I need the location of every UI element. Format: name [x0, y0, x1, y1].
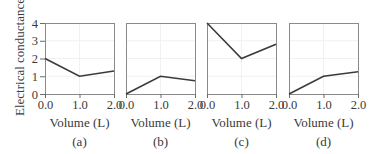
panel-label: (b): [153, 134, 168, 149]
panel-label: (c): [234, 134, 248, 149]
x-axis-label: Volume (L): [130, 115, 190, 130]
chart-panels: 0.01.02.001234Volume (L)(a)0.01.02.0Volu…: [32, 17, 367, 150]
x-tick-label: 1.0: [316, 98, 332, 112]
x-tick-label: 0.0: [38, 98, 54, 112]
conductance-figure: Electrical conductance 0.01.02.001234Vol…: [0, 0, 379, 154]
y-tick-label: 1: [32, 70, 38, 84]
x-tick-label: 1.0: [72, 98, 88, 112]
x-tick-label: 0.0: [200, 98, 216, 112]
panel-label: (d): [316, 134, 331, 149]
y-tick-label: 3: [32, 34, 38, 48]
x-tick-label: 1.0: [234, 98, 250, 112]
y-axis-label: Electrical conductance: [12, 0, 27, 116]
chart-panel-c: 0.01.02.0Volume (L)(c): [200, 23, 285, 149]
chart-panel-d: 0.01.02.0Volume (L)(d): [282, 23, 367, 149]
chart-panel-b: 0.01.02.0Volume (L)(b): [119, 23, 204, 149]
x-axis-label: Volume (L): [211, 115, 271, 130]
x-axis-label: Volume (L): [49, 115, 109, 130]
y-tick-label: 0: [32, 88, 38, 102]
y-tick-label: 2: [32, 52, 38, 66]
x-tick-label: 0.0: [282, 98, 298, 112]
x-axis-label: Volume (L): [293, 115, 353, 130]
y-tick-label: 4: [32, 17, 39, 31]
chart-panel-a: 0.01.02.001234Volume (L)(a): [32, 17, 123, 150]
x-tick-label: 2.0: [351, 98, 367, 112]
panel-label: (a): [72, 134, 86, 149]
x-tick-label: 0.0: [119, 98, 135, 112]
x-tick-label: 1.0: [153, 98, 169, 112]
